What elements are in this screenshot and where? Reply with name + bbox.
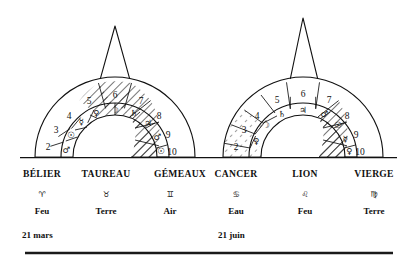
planet-venus-icon: ♀ [93,108,99,118]
sign-name: CANCER [215,168,259,179]
right-arch-number: 9 [354,130,359,140]
planet-moon-icon: ☽ [262,120,270,130]
sign-glyph-gemini-icon: ♊ [166,190,173,199]
planet-mars-icon: ♂ [62,145,70,155]
sign-name: VIERGE [354,168,394,179]
left-arch: 2 3 4 5 6 7 8 9 10 ♂ ☉ ☿ ♀ ☽ ♄ ♃ ♂ ☉ [35,26,195,157]
planet-sun-icon: ☉ [67,130,75,140]
sign-column: CANCER ♋ Eau [215,168,259,216]
left-arch-number: 9 [166,130,171,140]
sign-column: LION ♌ Feu [292,168,318,216]
right-arch-number: 3 [242,125,247,135]
right-arch-number: 10 [355,147,365,157]
sign-column: BÉLIER ♈ Feu [23,168,62,216]
left-arch-number: 10 [167,147,177,157]
zodiac-figure: 2 3 4 5 6 7 8 9 10 ♂ ☉ ☿ ♀ ☽ ♄ ♃ ♂ ☉ [0,0,417,262]
sign-name: TAUREAU [82,168,131,179]
left-arch-number: 8 [157,111,162,121]
left-arch-number: 6 [113,90,118,100]
sign-element: Feu [298,206,313,216]
left-arch-number: 7 [139,96,144,106]
sign-glyph-taurus-icon: ♉ [102,190,109,199]
planet-sun-icon: ☉ [334,120,342,130]
planet-saturn-icon: ♄ [130,108,138,118]
left-arch-spire [100,26,129,79]
right-arch-number: 2 [234,142,239,152]
right-arch-hatch-left [223,110,277,157]
right-arch-number: 4 [255,111,260,121]
date-label: 21 juin [218,230,245,240]
sign-name: BÉLIER [23,168,62,179]
planet-venus-icon: ♀ [253,136,259,146]
sign-column: GÉMEAUX ♊ Air [154,168,206,216]
planet-saturn-icon: ♄ [278,109,286,119]
sign-name: LION [292,168,318,179]
sign-glyph-virgo-icon: ♍ [370,190,377,199]
right-arch-number: 6 [301,89,306,99]
left-arch-number: 5 [87,96,92,106]
right-arch-number: 8 [345,111,350,121]
planet-jupiter-icon: ♃ [144,118,152,128]
right-arch: 2 3 4 5 6 7 8 9 10 ♀ ☽ ♄ ♃ ♂ ☉ ☿ ♀ [223,18,383,157]
sign-glyph-aries-icon: ♈ [38,190,45,199]
sign-element: Terre [96,206,117,216]
sign-column: TAUREAU ♉ Terre [82,168,131,216]
date-labels: 21 mars 21 juin [22,230,245,240]
sign-glyph-leo-icon: ♌ [301,190,308,199]
left-arch-number: 3 [54,125,59,135]
planet-sun-icon: ☉ [157,146,165,156]
planet-jupiter-icon: ♃ [299,105,307,115]
sign-element: Terre [364,206,385,216]
planet-mercury-icon: ☿ [78,117,83,127]
right-arch-number: 7 [327,95,332,105]
sign-element: Feu [35,206,50,216]
sign-name: GÉMEAUX [154,168,206,179]
left-arch-number: 4 [67,111,72,121]
planet-mars-icon: ♂ [320,109,328,119]
sign-glyph-cancer-icon: ♋ [232,190,239,199]
sign-column: VIERGE ♍ Terre [354,168,394,216]
planet-venus-icon: ♀ [346,146,352,156]
left-arch-number: 2 [46,142,51,152]
planet-mars-icon: ♂ [153,132,161,142]
planet-mercury-icon: ☿ [342,134,347,144]
sign-element: Air [164,206,177,216]
right-arch-spire [290,18,317,79]
sign-labels: BÉLIER ♈ Feu TAUREAU ♉ Terre GÉMEAUX ♊ A… [23,168,394,216]
date-label: 21 mars [22,230,53,240]
planet-moon-icon: ☽ [111,105,119,115]
sign-element: Eau [228,206,244,216]
zodiac-diagram-svg: 2 3 4 5 6 7 8 9 10 ♂ ☉ ☿ ♀ ☽ ♄ ♃ ♂ ☉ [0,0,417,262]
right-arch-number: 5 [275,95,280,105]
